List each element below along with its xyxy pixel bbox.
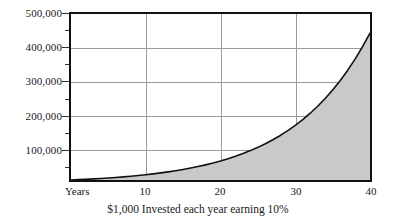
x-axis-tick-label-20: 20 — [208, 185, 232, 197]
y-axis-tick-label-200000: 200,000 — [26, 111, 62, 122]
y-axis-tick-label-300000: 300,000 — [26, 76, 62, 87]
plot-area — [69, 12, 372, 182]
y-axis-tick-label-100000: 100,000 — [26, 145, 62, 156]
investment-growth-curve — [71, 14, 370, 180]
y-axis-tick-label-400000: 400,000 — [26, 42, 62, 53]
x-axis-years-label: Years — [65, 185, 90, 197]
y-axis-tick-label-500000: 500,000 — [26, 8, 62, 19]
curve-fill-area — [71, 33, 370, 180]
chart-caption: $1,000 Invested each year earning 10% — [0, 203, 396, 216]
chart-figure: 500,000 400,000 300,000 200,000 100,000 … — [0, 0, 396, 224]
x-axis-tick-label-10: 10 — [133, 185, 157, 197]
x-axis-tick-label-40: 40 — [359, 185, 383, 197]
x-axis-tick-label-30: 30 — [284, 185, 308, 197]
